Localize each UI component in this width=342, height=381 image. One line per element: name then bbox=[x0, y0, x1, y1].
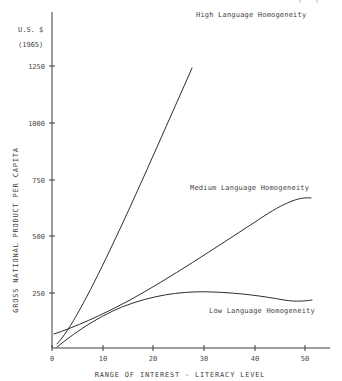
y-tick-label-1250: 1250 bbox=[28, 63, 45, 71]
unit-note-year: (1965) bbox=[18, 41, 43, 49]
curve-low-language-homogeneity bbox=[57, 292, 312, 347]
x-tick-label-30: 30 bbox=[200, 355, 208, 363]
top-clip-marks bbox=[300, 0, 317, 3]
x-tick-label-10: 10 bbox=[99, 355, 107, 363]
series-label-medium: Medium Language Homogeneity bbox=[190, 184, 309, 192]
y-tick-label-250: 250 bbox=[32, 290, 45, 298]
y-tick-labels: 1250 1000 750 500 250 bbox=[28, 63, 45, 298]
y-tick-label-750: 750 bbox=[32, 177, 45, 185]
chart-figure: 1250 1000 750 500 250 0 10 20 30 40 50 U… bbox=[0, 0, 342, 381]
y-tick-label-1000: 1000 bbox=[28, 120, 45, 128]
y-tick-label-500: 500 bbox=[32, 233, 45, 241]
y-axis-title: GROSS NATIONAL PRODUCT PER CAPITA bbox=[12, 147, 20, 312]
x-tick-label-50: 50 bbox=[301, 355, 309, 363]
x-axis-title: RANGE OF INTEREST - LITERACY LEVEL bbox=[95, 371, 266, 379]
series-label-low: Low Language Homogeneity bbox=[209, 307, 315, 315]
series-annotations: High Language Homogeneity Medium Languag… bbox=[190, 11, 315, 315]
series-curves bbox=[54, 68, 312, 347]
series-label-high: High Language Homogeneity bbox=[196, 11, 306, 19]
x-tick-label-20: 20 bbox=[149, 355, 157, 363]
x-tick-labels: 0 10 20 30 40 50 bbox=[50, 355, 309, 363]
chart-canvas: 1250 1000 750 500 250 0 10 20 30 40 50 U… bbox=[0, 0, 342, 381]
unit-note-currency: U.S. $ bbox=[18, 26, 43, 34]
x-tick-label-0: 0 bbox=[50, 355, 54, 363]
x-tick-label-40: 40 bbox=[251, 355, 259, 363]
currency-unit-note: U.S. $ (1965) bbox=[18, 26, 43, 49]
